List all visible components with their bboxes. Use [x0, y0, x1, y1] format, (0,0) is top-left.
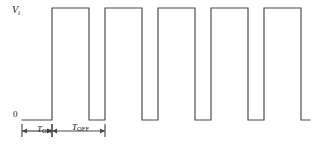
- square-wave-trace: [22, 8, 310, 120]
- dimension-arrowhead: [52, 128, 57, 133]
- t-off-subscript: OFF: [77, 125, 89, 132]
- waveform-figure: Vi 0 TON TOFF: [0, 0, 322, 149]
- zero-level-label: 0: [13, 110, 18, 119]
- t-on-label: TON: [37, 125, 52, 135]
- t-on-subscript: ON: [42, 127, 52, 134]
- t-off-label: TOFF: [72, 123, 89, 133]
- dimension-arrowhead: [22, 128, 27, 133]
- dimension-arrowhead: [100, 128, 105, 133]
- dimension-markers-group: [22, 124, 105, 137]
- signal-axis-label: Vi: [12, 5, 20, 17]
- signal-label-subscript: i: [18, 9, 20, 17]
